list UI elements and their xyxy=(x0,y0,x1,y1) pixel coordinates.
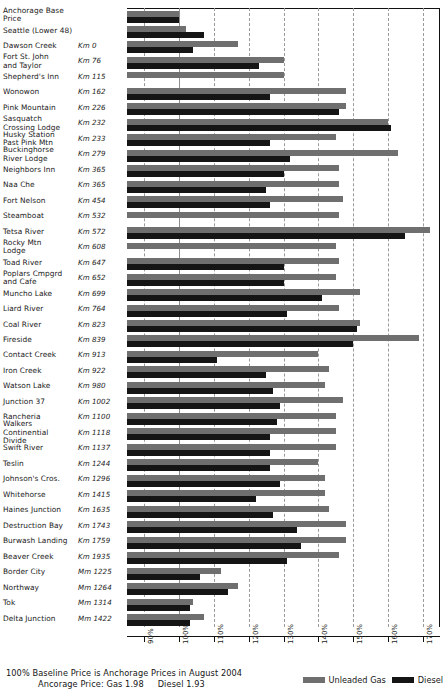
category-milepost: Mm 1314 xyxy=(78,599,120,607)
category-milepost: Km 913 xyxy=(78,351,120,359)
bar-diesel xyxy=(127,605,190,611)
category-name: Fort Nelson xyxy=(0,197,75,205)
category-label-row: SteamboatKm 532 xyxy=(0,209,120,224)
bar-group xyxy=(127,150,440,162)
category-name: Muncho Lake xyxy=(0,290,75,298)
x-tick-170 xyxy=(423,636,424,642)
bar-diesel xyxy=(127,357,217,363)
category-name: Iron Creek xyxy=(0,367,75,375)
category-label-row: Fort NelsonKm 454 xyxy=(0,193,120,208)
category-milepost: Km 1743 xyxy=(78,522,120,530)
bar-diesel xyxy=(127,341,353,347)
category-label-row: Poplars Cmpgrd and CafeKm 652 xyxy=(0,271,120,286)
legend-label-diesel: Diesel xyxy=(418,675,443,685)
legend-swatch-gas-icon xyxy=(303,677,325,683)
category-name: Steamboat xyxy=(0,212,75,220)
bar-group xyxy=(127,444,440,456)
bar-group xyxy=(127,258,440,270)
bar-diesel xyxy=(127,388,273,394)
category-milepost: Km 647 xyxy=(78,259,120,267)
bar-group xyxy=(127,397,440,409)
x-tick-160 xyxy=(388,636,389,642)
bar-diesel xyxy=(127,419,277,425)
bar-diesel xyxy=(127,63,259,69)
category-milepost: Km 232 xyxy=(78,119,120,127)
category-milepost: Km 233 xyxy=(78,135,120,143)
bar-group xyxy=(127,41,440,53)
category-label-row: TokMm 1314 xyxy=(0,596,120,611)
category-milepost: Km 572 xyxy=(78,228,120,236)
gridline-100 xyxy=(179,8,181,627)
category-name: Coal River xyxy=(0,321,75,329)
x-tick-90 xyxy=(144,636,145,642)
category-label-row: Coal RiverKm 823 xyxy=(0,317,120,332)
category-name: Delta Junction xyxy=(0,615,75,623)
category-milepost: Km 652 xyxy=(78,274,120,282)
bar-diesel xyxy=(127,465,270,471)
category-name: Wonowon xyxy=(0,88,75,96)
bar-diesel xyxy=(127,403,280,409)
gridline-130 xyxy=(284,8,286,627)
category-milepost: Km 279 xyxy=(78,150,120,158)
bar-diesel xyxy=(127,558,287,564)
category-name: Swift River xyxy=(0,444,75,452)
bar-group xyxy=(127,26,440,38)
category-label-row: Muncho LakeKm 699 xyxy=(0,286,120,301)
bar-diesel xyxy=(127,109,339,115)
bar-diesel xyxy=(127,574,200,580)
category-label-row: Buckinghorse River LodgeKm 279 xyxy=(0,147,120,162)
category-name: Johnson's Cros. xyxy=(0,475,75,483)
legend-item-diesel[interactable]: Diesel xyxy=(392,675,443,685)
category-milepost: Km 0 xyxy=(78,42,120,50)
category-label-row: Seattle (Lower 48) xyxy=(0,23,120,38)
gridline-90 xyxy=(144,8,146,627)
bar-group xyxy=(127,103,440,115)
category-milepost: Km 226 xyxy=(78,104,120,112)
category-milepost: Km 454 xyxy=(78,197,120,205)
category-milepost: Km 1244 xyxy=(78,460,120,468)
legend-item-unleaded-gas[interactable]: Unleaded Gas xyxy=(303,675,386,685)
bar-group xyxy=(127,475,440,487)
bar-diesel xyxy=(127,47,193,53)
category-milepost: Km 922 xyxy=(78,367,120,375)
x-tick-label-90: 90% xyxy=(147,628,155,644)
category-name: Naa Che xyxy=(0,181,75,189)
x-tick-140 xyxy=(318,636,319,642)
bar-unleaded-gas xyxy=(127,72,284,78)
x-tick-label-140: 140% xyxy=(321,624,329,644)
bar-diesel xyxy=(127,32,204,38)
anchorage-price-diesel: Diesel 1.93 xyxy=(158,679,205,689)
x-tick-120 xyxy=(249,636,250,642)
category-label-row: Shepherd's InnKm 115 xyxy=(0,69,120,84)
category-name: Watson Lake xyxy=(0,382,75,390)
category-name: Pink Mountain xyxy=(0,104,75,112)
bar-group xyxy=(127,119,440,131)
category-label-row: Contact CreekKm 913 xyxy=(0,348,120,363)
category-milepost: Km 764 xyxy=(78,305,120,313)
bar-group xyxy=(127,134,440,146)
category-name: Contact Creek xyxy=(0,351,75,359)
chart-legend: Unleaded Gas Diesel xyxy=(303,675,443,685)
x-tick-label-110: 110% xyxy=(217,624,225,644)
category-label-row: Burwash LandingKm 1759 xyxy=(0,534,120,549)
bar-group xyxy=(127,490,440,502)
category-name: Junction 37 xyxy=(0,398,75,406)
category-name: Fort St. John and Taylor xyxy=(0,53,75,70)
category-label-row: TeslinKm 1244 xyxy=(0,456,120,471)
bar-group xyxy=(127,274,440,286)
category-label-row: Walkers Continential DivideKm 1118 xyxy=(0,425,120,440)
bar-diesel xyxy=(127,187,266,193)
category-milepost: Km 1935 xyxy=(78,553,120,561)
bar-group xyxy=(127,320,440,332)
bar-diesel xyxy=(127,280,284,286)
bar-diesel xyxy=(127,512,273,518)
category-label-row: Border CityMm 1225 xyxy=(0,565,120,580)
category-milepost: Km 839 xyxy=(78,336,120,344)
bar-group xyxy=(127,305,440,317)
bar-group xyxy=(127,413,440,425)
bar-diesel xyxy=(127,233,405,239)
category-milepost: Km 365 xyxy=(78,166,120,174)
bar-diesel xyxy=(127,94,270,100)
fuel-price-chart: Anchorage Base PriceSeattle (Lower 48)Da… xyxy=(0,0,445,695)
category-label-row: Fort St. John and TaylorKm 76 xyxy=(0,54,120,69)
